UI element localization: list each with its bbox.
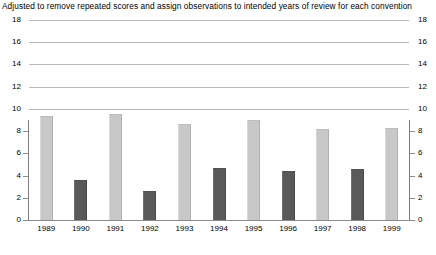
bar-1993: [178, 124, 191, 220]
bar-1991: [109, 114, 122, 220]
bar-chart-figure: Adjusted to remove repeated scores and a…: [0, 0, 436, 255]
plot-area: 181614121086420 181614121086420: [29, 20, 409, 220]
y-axis-left-label-2: 2: [17, 194, 21, 202]
x-axis-label-1996: 1996: [279, 224, 297, 234]
bar-1990: [74, 180, 87, 220]
x-axis-label-1994: 1994: [210, 224, 228, 234]
bar-1995: [247, 120, 260, 220]
y-axis-right-label-2: 2: [418, 194, 422, 202]
x-axis-label-1992: 1992: [141, 224, 159, 234]
bar-1992: [143, 191, 156, 220]
y-axis-left-label-6: 6: [17, 149, 21, 157]
bar-1997: [316, 129, 329, 220]
bars-group: [29, 20, 409, 220]
x-axis-label-1999: 1999: [383, 224, 401, 234]
x-axis-label-1989: 1989: [37, 224, 55, 234]
x-axis-labels: 1989199019911992199319941995199619971998…: [29, 224, 409, 238]
y-axis-right-label-8: 8: [418, 127, 422, 135]
y-axis-right-line: [409, 120, 410, 221]
x-axis-line: [28, 220, 410, 221]
y-axis-left-label-8: 8: [17, 127, 21, 135]
bar-1999: [385, 128, 398, 220]
y-axis-left-label-18: 18: [12, 16, 21, 24]
y-axis-left-label-4: 4: [17, 172, 21, 180]
bar-1994: [213, 168, 226, 220]
y-axis-right-label-0: 0: [418, 216, 422, 224]
y-axis-right-label-12: 12: [418, 83, 427, 91]
y-axis-right-label-18: 18: [418, 16, 427, 24]
y-axis-left-label-16: 16: [12, 38, 21, 46]
y-axis-right-label-6: 6: [418, 149, 422, 157]
x-axis-label-1991: 1991: [106, 224, 124, 234]
bar-1989: [40, 116, 53, 220]
bar-1998: [351, 169, 364, 220]
x-axis-label-1997: 1997: [314, 224, 332, 234]
x-axis-label-1998: 1998: [348, 224, 366, 234]
y-axis-left-label-12: 12: [12, 83, 21, 91]
y-axis-right-label-14: 14: [418, 60, 427, 68]
chart-title: Adjusted to remove repeated scores and a…: [2, 1, 434, 12]
bar-1996: [282, 171, 295, 220]
y-axis-left-label-0: 0: [17, 216, 21, 224]
x-axis-label-1990: 1990: [72, 224, 90, 234]
y-axis-right-label-4: 4: [418, 172, 422, 180]
y-axis-right-label-16: 16: [418, 38, 427, 46]
y-axis-right-label-10: 10: [418, 105, 427, 113]
x-axis-label-1993: 1993: [176, 224, 194, 234]
y-axis-left-label-10: 10: [12, 105, 21, 113]
y-axis-left-label-14: 14: [12, 60, 21, 68]
x-axis-label-1995: 1995: [245, 224, 263, 234]
